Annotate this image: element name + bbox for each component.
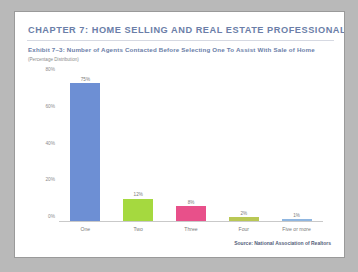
y-axis-tick-label: 0% [48,214,55,219]
x-axis-tick-label: Five or more [282,226,311,232]
header-divider [27,40,334,41]
bar-value-label: 12% [134,192,143,197]
bar-group: 75%One [59,74,112,221]
y-axis-tick-label: 60% [45,103,55,108]
x-axis-tick-label: Three [184,226,197,232]
chapter-title: CHAPTER 7: HOME SELLING AND REAL ESTATE … [28,25,345,35]
x-axis-line [59,221,323,222]
exhibit-title: Exhibit 7–3: Number of Agents Contacted … [28,46,315,53]
y-axis-tick-label: 20% [45,177,55,182]
bar-value-label: 1% [293,213,300,218]
exhibit-page: CHAPTER 7: HOME SELLING AND REAL ESTATE … [14,11,345,258]
exhibit-note: (Percentage Distribution) [28,57,79,62]
x-axis-tick-label: One [81,226,91,232]
bar-chart-plot-area: 0%20%40%60%80%75%One12%Two8%Three2%Four1… [59,74,323,221]
x-axis-tick-label: Four [239,226,249,232]
bar-value-label: 75% [81,77,90,82]
bar[interactable] [123,199,153,221]
bar-group: 8%Three [165,74,218,221]
y-axis-tick-label: 40% [45,140,55,145]
bar[interactable] [70,83,100,221]
source-note: Source: National Association of Realtors [234,240,331,246]
x-axis-tick-label: Two [134,226,143,232]
y-axis-tick-label: 80% [45,67,55,72]
bar-value-label: 8% [188,200,195,205]
bar-group: 12%Two [112,74,165,221]
bar-group: 1%Five or more [270,74,323,221]
bar[interactable] [176,206,206,221]
bar-group: 2%Four [217,74,270,221]
bar-value-label: 2% [240,211,247,216]
